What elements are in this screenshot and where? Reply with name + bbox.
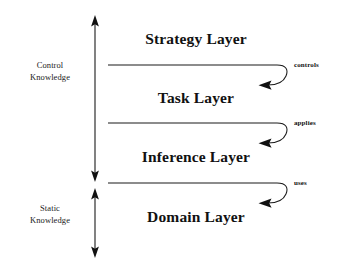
- relation-arrow-controls: [108, 65, 287, 90]
- static-knowledge-line-2: Knowledge: [7, 215, 93, 227]
- relation-arrow-applies: [108, 123, 287, 148]
- knowledge-group-label-control: Control Knowledge: [7, 60, 93, 83]
- relation-label-controls: controls: [294, 61, 319, 70]
- control-knowledge-line-2: Knowledge: [7, 72, 93, 84]
- relation-label-applies: applies: [294, 119, 316, 128]
- layer-title-inference: Inference Layer: [96, 148, 296, 166]
- relation-label-uses: uses: [294, 179, 307, 188]
- control-knowledge-line-1: Control: [7, 60, 93, 72]
- layer-title-domain: Domain Layer: [96, 208, 296, 226]
- relation-arrow-uses: [108, 183, 287, 208]
- static-knowledge-line-1: Static: [7, 203, 93, 215]
- diagram-canvas: Control Knowledge Static Knowledge Strat…: [0, 0, 339, 273]
- layer-title-strategy: Strategy Layer: [96, 30, 296, 48]
- layer-title-task: Task Layer: [96, 89, 296, 107]
- knowledge-group-label-static: Static Knowledge: [7, 203, 93, 226]
